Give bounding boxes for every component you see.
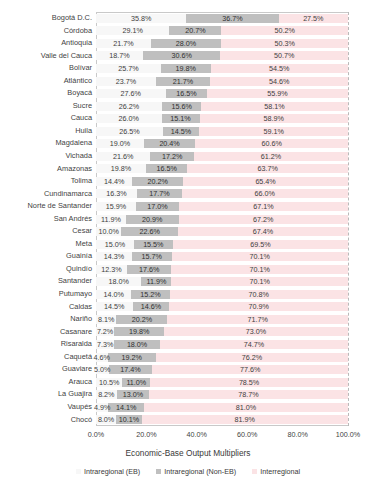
- category-label: Arauca: [0, 376, 96, 389]
- segment-intraregional-non-eb: 19.8%: [161, 64, 211, 73]
- category-label: Amazonas: [0, 163, 96, 176]
- category-label: Huila: [0, 125, 96, 138]
- segment-interregional: 65.4%: [183, 177, 348, 186]
- segment-intraregional-non-eb: 13.0%: [117, 390, 150, 399]
- segment-value-label: 54.5%: [269, 64, 289, 73]
- legend-item[interactable]: Interregional: [252, 467, 300, 476]
- inter-swatch-icon: [252, 469, 257, 474]
- segment-intraregional-eb: 5.0%: [96, 365, 109, 374]
- bar-row: Cundinamarca16.3%17.7%66.0%: [0, 188, 376, 201]
- segment-interregional: 54.5%: [211, 64, 348, 73]
- legend-label: Interregional: [260, 467, 300, 476]
- segment-interregional: 50.7%: [220, 51, 348, 60]
- bar-track: 18.7%30.6%50.7%: [96, 50, 348, 63]
- legend-item[interactable]: Intraregional (Non-EB): [156, 467, 236, 476]
- category-label: Cauca: [0, 112, 96, 125]
- bar-row: Putumayo14.0%15.2%70.8%: [0, 288, 376, 301]
- segment-value-label: 36.7%: [222, 14, 242, 23]
- segment-value-label: 11.9%: [101, 215, 121, 224]
- segment-interregional: 67.2%: [179, 215, 348, 224]
- category-label: Norte de Santander: [0, 200, 96, 213]
- segment-value-label: 71.7%: [247, 315, 267, 324]
- segment-value-label: 11.9%: [146, 277, 166, 286]
- bar-row: Nariño8.1%20.2%71.7%: [0, 313, 376, 326]
- bar-track: 21.7%28.0%50.3%: [96, 37, 348, 50]
- bar-track: 11.9%20.9%67.2%: [96, 213, 348, 226]
- bar-row: Valle del Cauca18.7%30.6%50.7%: [0, 50, 376, 63]
- segment-value-label: 26.5%: [119, 127, 139, 136]
- segment-intraregional-non-eb: 15.1%: [162, 114, 200, 123]
- segment-value-label: 22.6%: [139, 227, 159, 236]
- segment-intraregional-eb: 26.2%: [96, 102, 162, 111]
- segment-intraregional-non-eb: 18.0%: [114, 340, 159, 349]
- segment-intraregional-non-eb: 15.6%: [162, 102, 201, 111]
- category-label: Guainía: [0, 250, 96, 263]
- segment-interregional: 70.1%: [172, 252, 348, 261]
- segment-value-label: 35.8%: [131, 14, 151, 23]
- bar-track: 27.6%16.5%55.9%: [96, 87, 348, 100]
- segment-value-label: 14.0%: [103, 290, 123, 299]
- bar-track: 15.9%17.0%67.1%: [96, 200, 348, 213]
- x-axis-tick: 0.0%: [88, 430, 104, 439]
- segment-intraregional-non-eb: 15.2%: [131, 290, 169, 299]
- segment-value-label: 65.4%: [255, 177, 275, 186]
- segment-value-label: 50.7%: [274, 51, 294, 60]
- segment-value-label: 70.8%: [249, 290, 269, 299]
- segment-value-label: 8.1%: [98, 315, 114, 324]
- bar-row: Norte de Santander15.9%17.0%67.1%: [0, 200, 376, 213]
- bar-track: 8.0%10.1%81.9%: [96, 414, 348, 427]
- category-label: Bolívar: [0, 62, 96, 75]
- segment-intraregional-eb: 25.7%: [96, 64, 161, 73]
- bar-track: 14.5%14.6%70.9%: [96, 301, 348, 314]
- bar-track: 21.6%17.2%61.2%: [96, 150, 348, 163]
- segment-interregional: 58.1%: [201, 102, 347, 111]
- segment-interregional: 50.3%: [221, 39, 348, 48]
- segment-value-label: 67.4%: [253, 227, 273, 236]
- bar-track: 5.0%17.4%77.6%: [96, 363, 348, 376]
- segment-intraregional-non-eb: 20.2%: [116, 315, 167, 324]
- segment-value-label: 77.6%: [240, 365, 260, 374]
- bar-row: La Guajira8.2%13.0%78.7%: [0, 388, 376, 401]
- segment-intraregional-non-eb: 36.7%: [186, 14, 278, 23]
- segment-value-label: 15.6%: [171, 102, 191, 111]
- segment-intraregional-non-eb: 30.6%: [143, 51, 220, 60]
- segment-value-label: 16.5%: [156, 164, 176, 173]
- bar-row: Bolívar25.7%19.8%54.5%: [0, 62, 376, 75]
- x-axis-tick: 60.0%: [237, 430, 257, 439]
- segment-value-label: 78.5%: [239, 378, 259, 387]
- segment-intraregional-eb: 26.5%: [96, 127, 163, 136]
- segment-value-label: 4.6%: [94, 353, 110, 362]
- segment-interregional: 70.1%: [171, 277, 348, 286]
- segment-intraregional-eb: 26.0%: [96, 114, 162, 123]
- segment-value-label: 14.5%: [104, 302, 124, 311]
- segment-interregional: 70.1%: [171, 265, 348, 274]
- x-axis-title: Economic-Base Output Multipliers: [0, 448, 376, 458]
- segment-value-label: 7.3%: [97, 340, 113, 349]
- segment-value-label: 27.5%: [303, 14, 323, 23]
- noneb-swatch-icon: [156, 469, 161, 474]
- segment-intraregional-non-eb: 17.2%: [150, 152, 193, 161]
- segment-value-label: 73.0%: [246, 327, 266, 336]
- category-label: San Andrés: [0, 213, 96, 226]
- segment-value-label: 10.0%: [98, 227, 118, 236]
- category-label: Vaupés: [0, 401, 96, 414]
- segment-value-label: 17.0%: [147, 202, 167, 211]
- segment-value-label: 54.6%: [269, 77, 289, 86]
- segment-value-label: 12.3%: [101, 265, 121, 274]
- segment-value-label: 15.7%: [142, 252, 162, 261]
- segment-value-label: 61.2%: [261, 152, 281, 161]
- segment-intraregional-eb: 23.7%: [96, 77, 156, 86]
- category-label: Putumayo: [0, 288, 96, 301]
- category-label: Magdalena: [0, 137, 96, 150]
- segment-value-label: 25.7%: [118, 64, 138, 73]
- chart-legend: Intraregional (EB)Intraregional (Non-EB)…: [0, 467, 376, 476]
- segment-interregional: 73.0%: [164, 327, 348, 336]
- segment-value-label: 18.0%: [127, 340, 147, 349]
- segment-interregional: 50.2%: [221, 26, 348, 35]
- legend-item[interactable]: Intraregional (EB): [76, 467, 140, 476]
- bar-track: 26.2%15.6%58.1%: [96, 100, 348, 113]
- segment-value-label: 23.7%: [116, 77, 136, 86]
- segment-value-label: 18.7%: [109, 51, 129, 60]
- category-label: Antioquia: [0, 37, 96, 50]
- bar-track: 23.7%21.7%54.6%: [96, 75, 348, 88]
